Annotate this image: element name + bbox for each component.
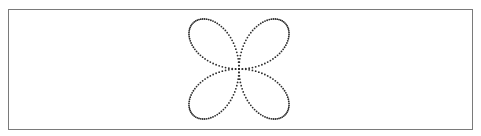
curve-dot [230, 37, 232, 39]
curve-dot [288, 100, 290, 102]
curve-dot [287, 96, 289, 98]
curve-dot [188, 34, 190, 36]
curve-dot [190, 94, 192, 96]
curve-dot [280, 19, 282, 21]
curve-dot [207, 60, 209, 62]
curve-dot [252, 30, 254, 32]
curve-dot [281, 20, 283, 22]
curve-dot [260, 23, 262, 25]
curve-dot [287, 38, 289, 40]
curve-dot [247, 37, 249, 39]
curve-dot [240, 51, 242, 53]
curve-dot [268, 117, 270, 119]
curve-dot [206, 18, 208, 20]
curve-dot [241, 88, 243, 90]
curve-dot [218, 71, 220, 73]
curve-dot [272, 58, 274, 60]
curve-dot [214, 115, 216, 117]
curve-dot [212, 74, 214, 76]
curve-dot [204, 18, 206, 20]
curve-dot [233, 42, 235, 44]
curve-dot [200, 18, 202, 20]
curve-dot [221, 66, 223, 68]
curve-dot [261, 64, 263, 66]
curve-dot [234, 45, 236, 47]
curve-dot [288, 106, 290, 108]
curve-dot [194, 88, 196, 90]
curve-dot [189, 38, 191, 40]
curve-dot [256, 26, 258, 28]
curve-dot [276, 18, 278, 20]
curve-dot [279, 84, 281, 86]
curve-dot [237, 58, 239, 60]
curve-dot [281, 86, 283, 88]
curve-dot [190, 42, 192, 44]
curve-dot [196, 86, 198, 88]
curve-dot [234, 91, 236, 93]
curve-dot [248, 34, 250, 36]
curve-dot [252, 67, 254, 69]
curve-dot [198, 84, 200, 86]
curve-dot [261, 72, 263, 74]
curve-dot [288, 34, 290, 36]
curve-dot [254, 109, 256, 111]
curve-dot [241, 48, 243, 50]
curve-dot [188, 106, 190, 108]
curve-dot [196, 19, 198, 21]
curve-dot [272, 118, 274, 120]
curve-dot [287, 110, 289, 112]
curve-dot [221, 111, 223, 113]
curve-dot [191, 44, 193, 46]
curve-dot [188, 104, 190, 106]
curve-dot [212, 63, 214, 65]
curve-dot [267, 61, 269, 63]
curve-dot [255, 70, 257, 72]
curve-dot [223, 109, 225, 111]
curve-dot [208, 19, 210, 21]
curve-dot [215, 72, 217, 74]
curve-dot [250, 32, 252, 34]
curve-dot [274, 56, 276, 58]
curve-dot [245, 68, 247, 70]
curve-dot [231, 68, 233, 70]
curve-dot [200, 82, 202, 84]
curve-dot [226, 104, 228, 106]
curve-dot [204, 118, 206, 120]
curve-dot [216, 114, 218, 116]
curve-dot [254, 28, 256, 30]
curve-dot [188, 36, 190, 38]
curve-dot [288, 102, 290, 104]
curve-dot [237, 78, 239, 80]
curve-dot [288, 108, 290, 110]
curve-dot [248, 102, 250, 104]
curve-dot [235, 88, 237, 90]
curve-dot [226, 32, 228, 34]
curve-dot [224, 107, 226, 109]
curve-dot [280, 117, 282, 119]
curve-dot [189, 26, 191, 28]
curve-dot [277, 54, 279, 56]
curve-dot [209, 61, 211, 63]
curve-dot [258, 112, 260, 114]
curve-dot [286, 42, 288, 44]
curve-dot [207, 77, 209, 79]
curve-dot [240, 55, 242, 57]
curve-dot [270, 118, 272, 120]
curve-dot [231, 97, 233, 99]
curve-dot [285, 92, 287, 94]
curve-dot [189, 110, 191, 112]
curve-dot [228, 34, 230, 36]
curve-dot [189, 108, 191, 110]
curve-dot [235, 68, 237, 70]
curve-dot [252, 107, 254, 109]
curve-dot [212, 20, 214, 22]
curve-dot [245, 39, 247, 41]
curve-dot [258, 71, 260, 73]
curve-dot [224, 30, 226, 32]
curve-dot [204, 58, 206, 60]
curve-dot [225, 70, 227, 72]
curve-dot [198, 53, 200, 55]
curve-dot [230, 99, 232, 101]
curve-dot [285, 44, 287, 46]
curve-dot [284, 46, 286, 48]
